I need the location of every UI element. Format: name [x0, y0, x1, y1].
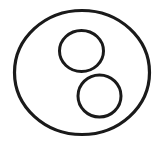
figure-canvas [0, 0, 161, 150]
lower-inner-circle [78, 75, 121, 117]
line-drawing-svg [0, 0, 161, 150]
upper-inner-circle [60, 31, 104, 72]
